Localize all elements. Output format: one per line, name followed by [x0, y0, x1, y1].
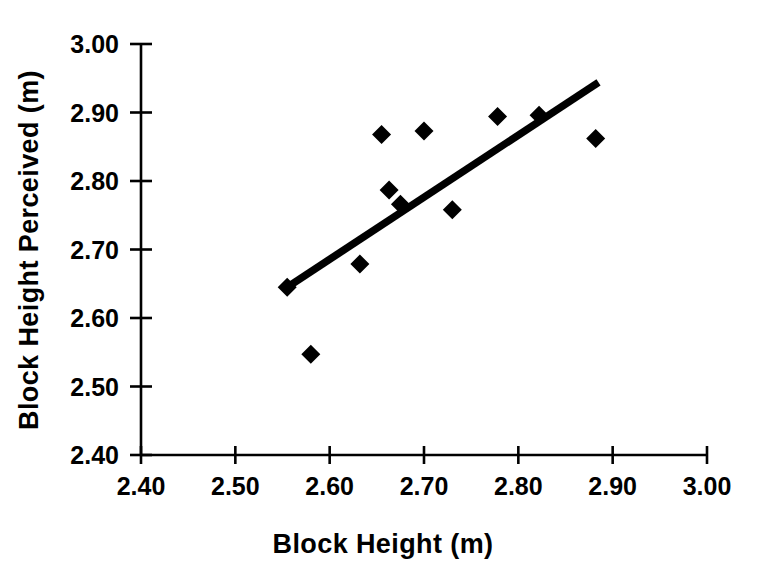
data-point-marker — [350, 254, 369, 273]
x-tick-label: 2.90 — [588, 472, 637, 500]
trend-line — [286, 82, 598, 287]
scatter-plot-figure: 2.402.502.602.702.802.903.002.402.502.60… — [0, 0, 766, 582]
x-tick-label: 2.70 — [400, 472, 449, 500]
data-point-marker — [488, 107, 507, 126]
x-axis-title: Block Height (m) — [273, 529, 494, 559]
chart-canvas: 2.402.502.602.702.802.903.002.402.502.60… — [0, 0, 766, 582]
x-tick-label: 2.60 — [305, 472, 354, 500]
data-point-marker — [301, 345, 320, 364]
data-point-marker — [380, 180, 399, 199]
y-tick-label: 3.00 — [70, 30, 119, 58]
y-tick-label: 2.60 — [70, 304, 119, 332]
data-points-group — [278, 106, 605, 364]
x-tick-label: 2.40 — [117, 472, 166, 500]
y-tick-label: 2.90 — [70, 99, 119, 127]
trendline-group — [286, 82, 598, 287]
x-tick-label: 2.80 — [494, 472, 543, 500]
x-tick-label: 2.50 — [211, 472, 260, 500]
x-tick-label: 3.00 — [683, 472, 732, 500]
y-axis-title: Block Height Perceived (m) — [14, 70, 44, 430]
y-tick-label: 2.80 — [70, 167, 119, 195]
data-point-marker — [372, 125, 391, 144]
axes-group — [141, 44, 707, 455]
tick-labels-group: 2.402.502.602.702.802.903.002.402.502.60… — [70, 30, 731, 500]
y-tick-label: 2.70 — [70, 236, 119, 264]
data-point-marker — [443, 200, 462, 219]
data-point-marker — [415, 121, 434, 140]
tick-marks-group — [130, 44, 707, 464]
y-tick-label: 2.50 — [70, 373, 119, 401]
y-tick-label: 2.40 — [70, 441, 119, 469]
data-point-marker — [586, 129, 605, 148]
